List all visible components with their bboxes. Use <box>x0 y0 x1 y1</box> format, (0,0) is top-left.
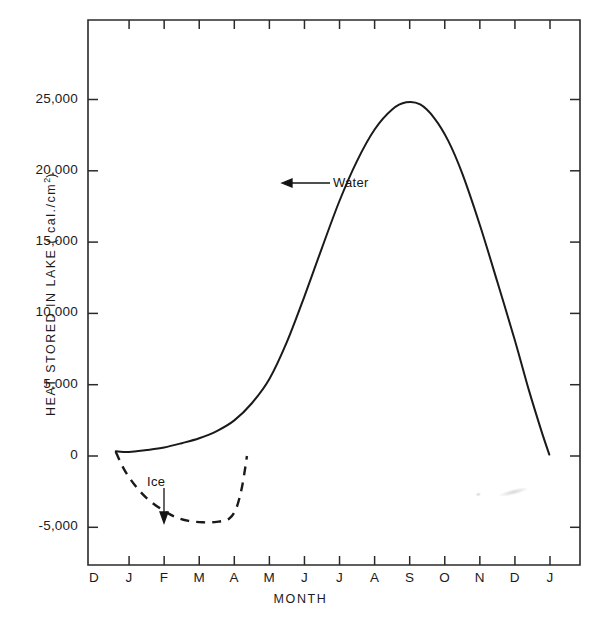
y-axis-tick-label: 0 <box>70 447 78 462</box>
x-axis-tick-label: J <box>292 570 316 585</box>
x-axis-tick-label: A <box>222 570 246 585</box>
x-axis-tick-label: S <box>398 570 422 585</box>
ice-series-label: Ice <box>147 474 165 489</box>
y-axis-title-exponent: 2 <box>42 178 52 183</box>
y-axis-tick-label: -5,000 <box>39 518 78 533</box>
series-water-curve <box>116 102 550 455</box>
x-axis-tick-label: M <box>187 570 211 585</box>
y-axis-title-tail: ) <box>44 172 58 178</box>
water-series-label: Water <box>333 175 369 190</box>
plot-area <box>0 0 601 627</box>
series-ice-curve <box>116 452 247 523</box>
x-axis-tick-label: N <box>468 570 492 585</box>
x-axis-ticks <box>129 556 550 565</box>
x-axis-tick-label: F <box>152 570 176 585</box>
x-axis-tick-label: J <box>117 570 141 585</box>
chart-figure: 25,00020,00015,00010,0005,0000-5,000 DJF… <box>0 0 601 627</box>
x-axis-tick-label: D <box>503 570 527 585</box>
x-axis-tick-label: J <box>538 570 562 585</box>
x-axis-tick-label: O <box>433 570 457 585</box>
y-axis-ticks <box>88 100 98 528</box>
water-annotation-arrow <box>282 179 330 187</box>
x-axis-tick-label: A <box>363 570 387 585</box>
x-axis-tick-label: D <box>82 570 106 585</box>
x-axis-tick-label: M <box>257 570 281 585</box>
y-axis-title: HEAT STORED IN LAKE ( cal./cm2) <box>42 74 58 514</box>
ice-annotation-arrow <box>160 488 168 523</box>
y-axis-title-main: HEAT STORED IN LAKE ( cal./cm <box>44 183 58 416</box>
x-axis-tick-label: J <box>328 570 352 585</box>
x-axis-title: MONTH <box>0 592 601 606</box>
y-axis-right-ticks <box>570 100 580 528</box>
x-axis-top-ticks <box>129 20 550 29</box>
